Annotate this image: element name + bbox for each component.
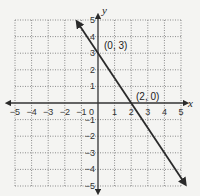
x-tick-label: −5	[10, 107, 20, 117]
y-tick-label: 3	[90, 48, 95, 58]
x-axis-label: x	[187, 97, 193, 109]
x-tick-label: −2	[60, 107, 70, 117]
x-tick-label: −3	[43, 107, 53, 117]
x-tick-label: 5	[178, 107, 183, 117]
y-tick-label: 2	[90, 65, 95, 75]
point-label-0-3: (0, 3)	[104, 40, 127, 51]
coordinate-plane: −5−4−3−2−112345−5−4−3−2−112345 x y 0 (0,…	[0, 0, 200, 196]
x-tick-label: −4	[26, 107, 36, 117]
x-tick-label: 2	[129, 107, 134, 117]
y-axis-label: y	[101, 4, 107, 16]
y-tick-label: −2	[85, 131, 95, 141]
y-tick-label: 1	[90, 81, 95, 91]
point-label-2-0: (2, 0)	[136, 91, 159, 102]
axes	[8, 16, 186, 192]
x-tick-label: 1	[112, 107, 117, 117]
y-tick-label: −4	[85, 164, 95, 174]
origin-label: 0	[89, 107, 94, 117]
x-tick-label: 4	[162, 107, 167, 117]
y-tick-label: 5	[90, 15, 95, 25]
y-tick-label: −3	[85, 148, 95, 158]
x-tick-label: 3	[145, 107, 150, 117]
y-tick-label: −5	[85, 181, 95, 191]
y-tick-label: 4	[90, 32, 95, 42]
